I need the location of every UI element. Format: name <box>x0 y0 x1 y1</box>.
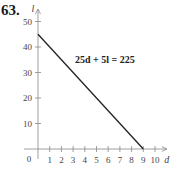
line-chart: 1234567891010203040500dl25d + 5l = 225 <box>0 0 184 175</box>
axes <box>24 9 167 159</box>
y-tick-label: 20 <box>23 93 33 103</box>
x-tick-label: 3 <box>71 155 76 165</box>
series-line <box>38 34 143 149</box>
data-series <box>38 34 143 149</box>
x-tick-label: 10 <box>151 155 161 165</box>
x-tick-label: 9 <box>141 155 146 165</box>
axis-labels: 1234567891010203040500dl25d + 5l = 225 <box>23 3 170 165</box>
equation-label: 25d + 5l = 225 <box>75 54 135 65</box>
y-tick-label: 30 <box>23 68 33 78</box>
x-tick-label: 8 <box>129 155 134 165</box>
x-tick-label: 7 <box>118 155 123 165</box>
y-tick-label: 10 <box>23 119 33 129</box>
x-tick-label: 6 <box>106 155 111 165</box>
y-tick-label: 40 <box>23 42 33 52</box>
y-axis-label: l <box>32 3 35 14</box>
x-axis-label: d <box>164 154 170 165</box>
tick-marks <box>35 22 155 153</box>
y-tick-label: 50 <box>23 17 33 27</box>
x-tick-label: 5 <box>94 155 99 165</box>
x-tick-label: 4 <box>83 155 88 165</box>
x-tick-label: 2 <box>59 155 64 165</box>
origin-label: 0 <box>27 154 32 164</box>
x-tick-label: 1 <box>47 155 52 165</box>
